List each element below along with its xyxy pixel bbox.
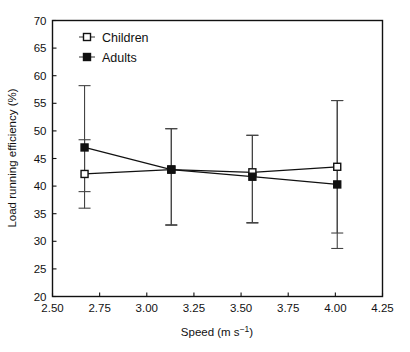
figure-caption (0, 343, 410, 352)
x-tick-label: 4.00 (324, 302, 346, 314)
legend-label-children: Children (102, 31, 149, 45)
y-tick-label: 40 (34, 180, 47, 192)
legend-marker-children (84, 34, 91, 41)
data-point-marker (81, 170, 88, 177)
legend-item-children[interactable]: Children (79, 31, 149, 45)
chart-canvas: 2025303540455055606570 2.502.753.003.253… (0, 0, 410, 352)
y-tick-label: 55 (34, 97, 47, 109)
errorbars-adults (79, 86, 344, 249)
y-axis-title: Load running efficiency (%) (6, 88, 18, 227)
x-tick-label: 3.00 (136, 302, 158, 314)
series-line-adults (85, 147, 338, 184)
y-tick-label: 70 (34, 15, 47, 27)
y-tick-label: 60 (34, 70, 47, 82)
svg-text:Speed (m s−1): Speed (m s−1) (181, 324, 254, 338)
figure-container: 2025303540455055606570 2.502.753.003.253… (0, 0, 410, 352)
y-tick-label: 50 (34, 125, 47, 137)
x-axis-title-close: ) (249, 326, 253, 338)
legend-marker-adults (84, 54, 91, 61)
y-tick-label: 25 (34, 263, 47, 275)
x-tick-label: 3.75 (277, 302, 299, 314)
x-tick-label: 2.50 (41, 302, 63, 314)
x-tick-label: 4.25 (371, 302, 393, 314)
y-tick-label: 45 (34, 153, 47, 165)
data-point-marker (168, 166, 175, 173)
x-tick-label: 3.50 (230, 302, 252, 314)
x-axis-ticks: 2.502.753.003.253.503.754.004.25 (41, 293, 393, 314)
x-axis-title: Speed (m s−1) (181, 324, 254, 338)
data-point-marker (249, 173, 256, 180)
legend-item-adults[interactable]: Adults (79, 51, 137, 65)
series-polyline (85, 147, 338, 184)
x-axis-title-base: Speed (m s (181, 326, 240, 338)
errorbars-children (79, 101, 344, 233)
data-point-marker (334, 181, 341, 188)
chart-legend: Children Adults (79, 31, 149, 65)
y-tick-label: 30 (34, 235, 47, 247)
data-point-marker (334, 163, 341, 170)
data-point-marker (81, 144, 88, 151)
legend-label-adults: Adults (102, 51, 137, 65)
y-tick-label: 35 (34, 208, 47, 220)
x-tick-label: 3.25 (183, 302, 205, 314)
x-axis-title-exponent: −1 (240, 324, 250, 334)
y-tick-label: 65 (34, 42, 47, 54)
x-tick-label: 2.75 (88, 302, 110, 314)
